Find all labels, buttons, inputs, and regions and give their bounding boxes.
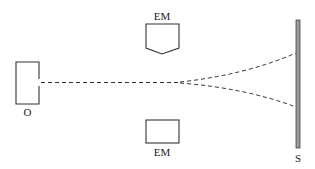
- electromagnet-top-pole: [146, 24, 179, 54]
- source-label: O: [24, 106, 32, 118]
- electron-beam: [41, 53, 296, 107]
- screen: [296, 20, 300, 148]
- beam-upper-path: [180, 53, 296, 82]
- electromagnet-top: [146, 24, 179, 54]
- screen-label: S: [295, 152, 301, 164]
- electromagnet-bottom: [146, 120, 179, 143]
- source-oven: [16, 62, 39, 104]
- electromagnet-bottom-pole: [146, 120, 179, 143]
- electromagnet-top-label: EM: [154, 10, 171, 22]
- electromagnet-bottom-label: EM: [154, 146, 171, 158]
- diagram-canvas: O EM EM S: [0, 0, 315, 169]
- source-box: [16, 62, 39, 104]
- screen-plate: [296, 20, 300, 148]
- beam-lower-path: [180, 83, 296, 107]
